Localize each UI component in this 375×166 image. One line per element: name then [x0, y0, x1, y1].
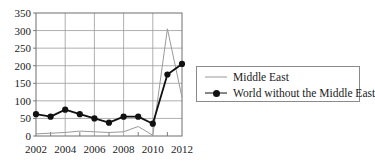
chart-legend: Middle East World without the Middle Eas…: [196, 66, 360, 102]
svg-text:250: 250: [15, 42, 32, 54]
svg-text:2004: 2004: [54, 143, 77, 155]
svg-text:2008: 2008: [113, 143, 136, 155]
legend-label-world-without-middle-east: World without the Middle East: [233, 87, 375, 99]
svg-text:2012: 2012: [171, 143, 193, 155]
svg-text:50: 50: [20, 112, 32, 124]
x-axis-tick-labels: 200220042006200820102012: [25, 143, 193, 155]
svg-text:350: 350: [15, 7, 32, 19]
legend-item-world-without-middle-east: World without the Middle East: [203, 86, 375, 100]
svg-text:2010: 2010: [142, 143, 165, 155]
legend-label-middle-east: Middle East: [233, 71, 289, 83]
svg-text:0: 0: [26, 130, 32, 142]
y-axis-tick-labels: 050100150200250300350: [15, 7, 32, 142]
svg-text:150: 150: [15, 77, 32, 89]
svg-text:300: 300: [15, 25, 32, 37]
plot-background: [36, 13, 182, 136]
svg-text:200: 200: [15, 60, 32, 72]
chart-plot-area: [33, 13, 185, 136]
legend-swatch-line-marker-icon: [203, 87, 229, 99]
legend-item-middle-east: Middle East: [203, 70, 289, 84]
svg-text:2006: 2006: [83, 143, 106, 155]
svg-text:2002: 2002: [25, 143, 47, 155]
svg-text:100: 100: [15, 95, 32, 107]
legend-swatch-line-icon: [203, 71, 229, 83]
